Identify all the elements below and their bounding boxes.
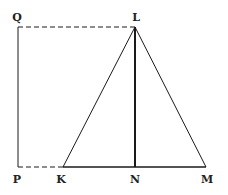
segment-LM (135, 27, 206, 167)
label-N: N (130, 173, 140, 186)
label-K: K (56, 173, 66, 186)
label-M: M (201, 173, 213, 186)
label-P: P (13, 173, 21, 186)
geometry-diagram: Q L P K N M (0, 0, 228, 195)
label-Q: Q (12, 11, 22, 24)
segment-KL (63, 27, 135, 167)
label-L: L (132, 11, 140, 24)
